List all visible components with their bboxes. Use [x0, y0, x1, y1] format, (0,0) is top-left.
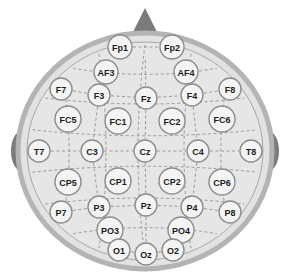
electrode-p3[interactable]: P3 [88, 196, 110, 218]
electrode-t8[interactable]: T8 [240, 140, 262, 162]
electrode-circle-cp1[interactable] [105, 168, 131, 194]
electrode-circle-p3[interactable] [88, 196, 110, 218]
electrode-p8[interactable]: P8 [219, 201, 241, 223]
electrode-circle-cp5[interactable] [55, 169, 81, 195]
electrode-fc1[interactable]: FC1 [105, 108, 131, 134]
electrode-circle-t8[interactable] [240, 140, 262, 162]
electrode-circle-p7[interactable] [50, 201, 72, 223]
electrode-circle-t7[interactable] [28, 140, 50, 162]
electrode-circle-o1[interactable] [108, 239, 130, 261]
electrode-f4[interactable]: F4 [181, 84, 203, 106]
electrode-circle-cp6[interactable] [209, 169, 235, 195]
electrode-circle-af3[interactable] [94, 60, 118, 84]
electrode-o2[interactable]: O2 [162, 239, 184, 261]
electrode-circle-af4[interactable] [174, 60, 198, 84]
electrode-c3[interactable]: C3 [81, 140, 103, 162]
electrode-cz[interactable]: Cz [134, 140, 156, 162]
electrode-f3[interactable]: F3 [88, 84, 110, 106]
electrode-circle-p8[interactable] [219, 201, 241, 223]
electrode-circle-f7[interactable] [50, 78, 72, 100]
electrode-fp2[interactable]: Fp2 [160, 35, 184, 59]
scalp-diagram-svg: Fp1Fp2AF3AF4F7F3FzF4F8FC5FC1FC2FC6T7C3Cz… [0, 0, 290, 279]
electrode-circle-fc6[interactable] [209, 106, 235, 132]
electrode-circle-fz[interactable] [135, 87, 157, 109]
electrode-af3[interactable]: AF3 [94, 60, 118, 84]
electrode-circle-pz[interactable] [135, 194, 157, 216]
electrode-oz[interactable]: Oz [135, 243, 157, 265]
electrode-fc2[interactable]: FC2 [159, 108, 185, 134]
electrode-cp1[interactable]: CP1 [105, 168, 131, 194]
electrode-t7[interactable]: T7 [28, 140, 50, 162]
electrode-cp5[interactable]: CP5 [55, 169, 81, 195]
electrode-f7[interactable]: F7 [50, 78, 72, 100]
electrode-circle-oz[interactable] [135, 243, 157, 265]
eeg-electrode-map: Fp1Fp2AF3AF4F7F3FzF4F8FC5FC1FC2FC6T7C3Cz… [0, 0, 290, 279]
electrode-circle-cp2[interactable] [159, 168, 185, 194]
electrode-circle-fc2[interactable] [159, 108, 185, 134]
electrode-fc6[interactable]: FC6 [209, 106, 235, 132]
electrode-fc5[interactable]: FC5 [55, 106, 81, 132]
electrode-circle-p4[interactable] [181, 196, 203, 218]
electrode-circle-f8[interactable] [219, 78, 241, 100]
electrode-circle-fc5[interactable] [55, 106, 81, 132]
electrode-circle-f4[interactable] [181, 84, 203, 106]
electrode-circle-o2[interactable] [162, 239, 184, 261]
electrode-circle-fc1[interactable] [105, 108, 131, 134]
electrode-f8[interactable]: F8 [219, 78, 241, 100]
electrode-circle-c3[interactable] [81, 140, 103, 162]
electrode-circle-fp2[interactable] [160, 35, 184, 59]
electrode-fz[interactable]: Fz [135, 87, 157, 109]
electrode-cp6[interactable]: CP6 [209, 169, 235, 195]
electrode-p4[interactable]: P4 [181, 196, 203, 218]
electrode-circle-f3[interactable] [88, 84, 110, 106]
electrode-circle-cz[interactable] [134, 140, 156, 162]
electrode-fp1[interactable]: Fp1 [108, 35, 132, 59]
electrode-circle-c4[interactable] [187, 140, 209, 162]
electrode-circle-fp1[interactable] [108, 35, 132, 59]
electrode-pz[interactable]: Pz [135, 194, 157, 216]
electrode-o1[interactable]: O1 [108, 239, 130, 261]
electrode-c4[interactable]: C4 [187, 140, 209, 162]
electrode-cp2[interactable]: CP2 [159, 168, 185, 194]
electrode-af4[interactable]: AF4 [174, 60, 198, 84]
electrode-p7[interactable]: P7 [50, 201, 72, 223]
